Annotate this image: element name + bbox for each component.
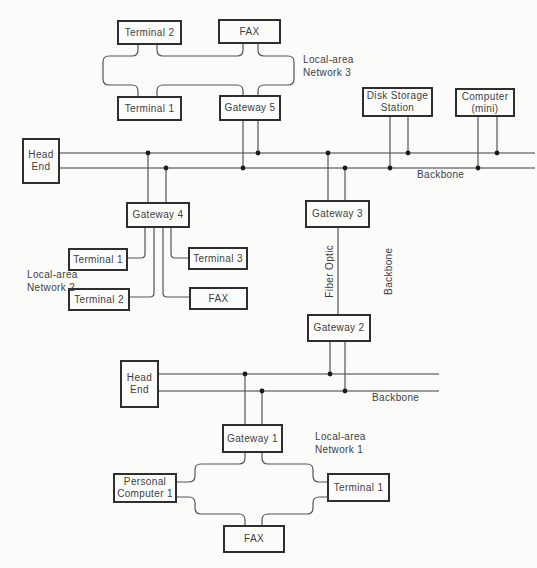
junction-dot [164, 166, 169, 171]
node-disk-storage-station: Disk Storage Station [362, 87, 433, 117]
node-gateway-5: Gateway 5 [219, 95, 281, 121]
backbone-bottom-taps [245, 342, 345, 424]
wire-gw4-terminal1 [128, 228, 145, 258]
backbone-top-taps [148, 117, 497, 202]
junction-dot [328, 372, 333, 377]
node-gateway-1: Gateway 1 [222, 424, 283, 453]
node-terminal-1-lan2: Terminal 1 [68, 248, 128, 271]
junction-dot [495, 151, 500, 156]
node-terminal-3-lan2: Terminal 3 [188, 247, 248, 270]
node-fax-lan1: FAX [223, 525, 285, 553]
node-terminal-2-lan3: Terminal 2 [117, 20, 182, 45]
junction-dot [260, 389, 265, 394]
lan1-ring-left-bottom [177, 497, 245, 525]
label-fiber-optic: Fiber Optic [324, 241, 337, 301]
label-lan1: Local-area Network 1 [315, 431, 366, 456]
node-gateway-4: Gateway 4 [126, 202, 190, 228]
label-lan3: Local-area Network 3 [303, 54, 354, 79]
junction-dot [146, 151, 151, 156]
node-head-end-1: Head End [22, 138, 60, 184]
junction-dot [406, 151, 411, 156]
wire-gw4-terminal2 [130, 228, 154, 297]
junction-dot [326, 151, 331, 156]
wire-gw4-terminal3 [171, 228, 188, 258]
lan2-star-wires [128, 228, 189, 297]
wire-gw4-fax [163, 228, 189, 297]
lan1-ring-right-top [262, 453, 327, 482]
lan3-ring-top [157, 44, 243, 56]
lan1-ring-left-top [177, 453, 245, 482]
lan1-ring-right-bottom [262, 497, 327, 525]
node-gateway-3: Gateway 3 [305, 200, 370, 228]
lan3-ring [103, 44, 294, 96]
label-backbone-vertical: Backbone [383, 241, 396, 301]
node-fax-lan2: FAX [189, 287, 248, 310]
junction-dots [146, 151, 500, 394]
node-head-end-2: Head End [120, 360, 159, 408]
junction-dot [388, 166, 393, 171]
label-backbone-top: Backbone [417, 169, 464, 182]
junction-dot [256, 151, 261, 156]
lan3-ring-left [103, 45, 138, 96]
label-backbone-bottom: Backbone [372, 392, 419, 405]
node-fax-lan3: FAX [218, 19, 281, 44]
junction-dot [476, 166, 481, 171]
node-personal-computer-1: Personal Computer 1 [113, 473, 177, 503]
junction-dot [343, 389, 348, 394]
backbone-top-lines [60, 153, 535, 168]
junction-dot [241, 166, 246, 171]
backbone-bottom-lines [159, 374, 439, 391]
node-gateway-2: Gateway 2 [307, 314, 371, 342]
network-diagram: Terminal 2 FAX Terminal 1 Gateway 5 Loca… [0, 0, 537, 568]
junction-dot [343, 166, 348, 171]
node-terminal-1-lan1: Terminal 1 [327, 473, 390, 502]
node-terminal-1-lan3: Terminal 1 [117, 96, 182, 121]
lan1-ring [177, 453, 327, 525]
diagram-wires [0, 0, 537, 568]
node-computer-mini: Computer (mini) [455, 88, 515, 117]
lan3-ring-right [258, 44, 294, 95]
label-lan2: Local-area Network 2 [27, 269, 78, 294]
junction-dot [243, 372, 248, 377]
